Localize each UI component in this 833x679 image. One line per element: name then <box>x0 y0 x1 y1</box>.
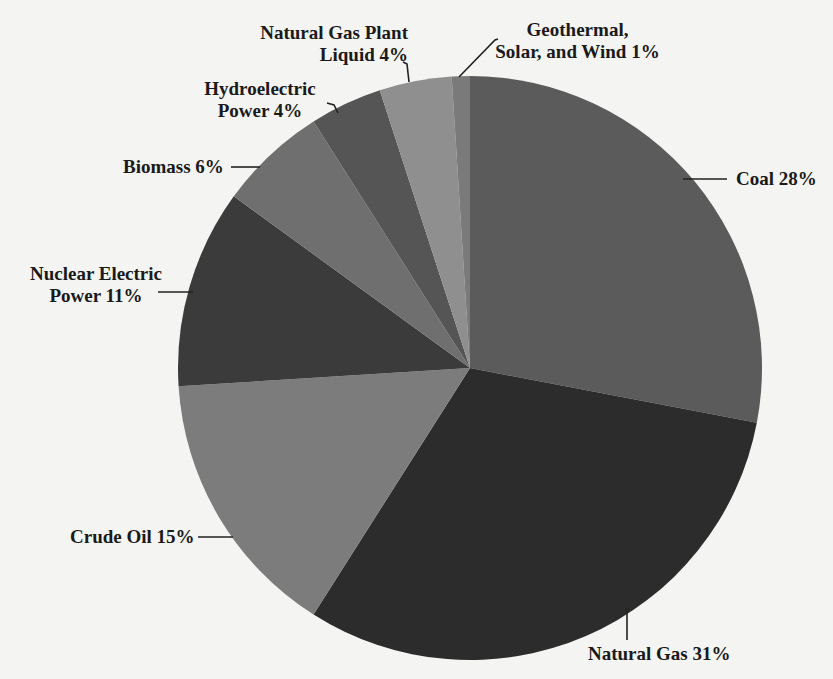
label-biomass: Biomass 6% <box>123 156 224 178</box>
label-coal: Coal 28% <box>736 168 817 190</box>
label-ngpl-line1: Natural Gas Plant <box>250 22 408 44</box>
label-ngpl-line2: Liquid 4% <box>250 44 408 66</box>
label-hydro-line1: Hydroelectric <box>200 78 320 100</box>
label-ngpl: Natural Gas Plant Liquid 4% <box>250 22 408 66</box>
label-nuclear-line2: Power 11% <box>26 285 166 307</box>
label-geo: Geothermal, Solar, and Wind 1% <box>490 19 665 63</box>
label-geo-line1: Geothermal, <box>490 19 665 41</box>
label-natural-gas: Natural Gas 31% <box>588 643 731 665</box>
pie-svg <box>0 0 833 679</box>
pie-slices <box>178 76 762 660</box>
label-nuclear: Nuclear Electric Power 11% <box>26 263 166 307</box>
pie-chart: Coal 28% Natural Gas 31% Crude Oil 15% N… <box>0 0 833 679</box>
label-hydro-line2: Power 4% <box>200 100 320 122</box>
label-hydro: Hydroelectric Power 4% <box>200 78 320 122</box>
label-crude-oil: Crude Oil 15% <box>70 526 195 548</box>
pie-slice-coal <box>470 76 762 423</box>
label-geo-line2: Solar, and Wind 1% <box>490 41 665 63</box>
label-nuclear-line1: Nuclear Electric <box>26 263 166 285</box>
